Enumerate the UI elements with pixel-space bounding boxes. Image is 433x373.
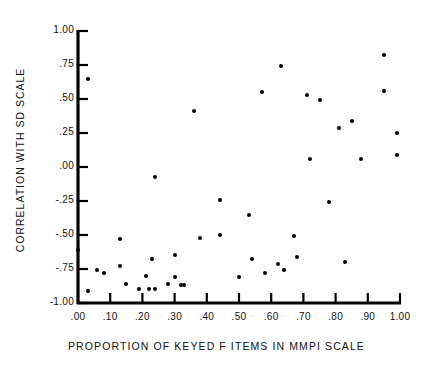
data-point <box>173 275 177 279</box>
y-tick-label: .75 <box>28 58 74 69</box>
y-tick-label: .50 <box>28 92 74 103</box>
y-tick-label: -1.00 <box>28 296 74 307</box>
data-point <box>395 131 399 135</box>
y-tick-label: -.75 <box>28 262 74 273</box>
data-point <box>247 213 251 217</box>
data-point <box>102 271 106 275</box>
y-tick-label: .25 <box>28 126 74 137</box>
x-axis-label-text: PROPORTION OF KEYED F ITEMS IN MMPI SCAL… <box>68 340 365 352</box>
x-axis-label: PROPORTION OF KEYED F ITEMS IN MMPI SCAL… <box>0 336 433 354</box>
x-tick-label: 1.00 <box>380 311 420 322</box>
y-tick-label: 1.00 <box>28 24 74 35</box>
data-point <box>395 153 399 157</box>
data-point <box>86 77 90 81</box>
data-point <box>86 289 90 293</box>
data-point <box>305 93 309 97</box>
data-point <box>276 262 280 266</box>
data-point <box>144 274 148 278</box>
data-point <box>295 255 299 259</box>
data-point <box>337 126 341 130</box>
y-tick-label: -.50 <box>28 228 74 239</box>
data-point <box>218 233 222 237</box>
y-tick-label: .00 <box>28 160 74 171</box>
data-point <box>318 98 322 102</box>
y-tick-label: -.25 <box>28 194 74 205</box>
data-point <box>76 248 80 252</box>
data-point <box>153 175 157 179</box>
data-point <box>382 89 386 93</box>
data-point <box>308 157 312 161</box>
data-point <box>350 119 354 123</box>
data-point <box>263 271 267 275</box>
scatter-plot-figure: CORRELATION WITH SD SCALE 1.00.75.50.25.… <box>0 0 433 373</box>
data-point <box>218 198 222 202</box>
data-point <box>260 90 264 94</box>
data-point <box>118 237 122 241</box>
